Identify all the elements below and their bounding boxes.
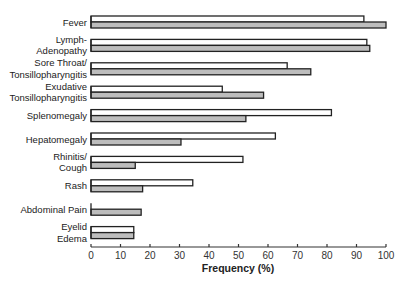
bar-shaded-6: [91, 162, 135, 168]
bar-shaded-2: [91, 69, 311, 75]
x-tick-label-8: 80: [321, 250, 333, 261]
x-tick-label-0: 0: [88, 250, 94, 261]
x-tick-label-3: 30: [174, 250, 186, 261]
category-label-2-0: Sore Throat/: [34, 57, 87, 68]
category-label-2-1: Tonsillopharyngitis: [9, 69, 87, 80]
category-label-9-1: Edema: [57, 233, 88, 244]
bar-shaded-7: [91, 186, 143, 192]
category-label-1-0: Lymph-: [56, 34, 87, 45]
category-label-3-0: Exudative: [45, 81, 87, 92]
category-label-8-0: Abdominal Pain: [20, 204, 87, 215]
bars-group: [91, 16, 386, 239]
bar-open-4: [91, 110, 331, 116]
bar-open-6: [91, 156, 243, 162]
bar-open-3: [91, 86, 222, 92]
x-axis: 0102030405060708090100: [88, 244, 395, 261]
bar-open-1: [91, 39, 367, 45]
bar-open-7: [91, 180, 193, 186]
x-tick-label-10: 100: [378, 250, 395, 261]
bar-open-5: [91, 133, 275, 139]
x-tick-label-9: 90: [351, 250, 363, 261]
frequency-bar-chart: FeverLymph-AdenopathySore Throat/Tonsill…: [0, 0, 410, 285]
bar-shaded-5: [91, 139, 181, 145]
category-label-9-0: Eyelid: [61, 221, 87, 232]
bar-shaded-9: [91, 233, 134, 239]
x-tick-label-2: 20: [144, 250, 156, 261]
x-axis-title: Frequency (%): [202, 262, 274, 274]
category-label-3-1: Tonsillopharyngitis: [9, 92, 87, 103]
category-label-5-0: Hepatomegaly: [26, 134, 88, 145]
category-label-7-0: Rash: [65, 180, 87, 191]
x-tick-label-1: 10: [115, 250, 127, 261]
category-label-0-0: Fever: [63, 17, 87, 28]
bar-open-9: [91, 227, 134, 233]
category-labels: FeverLymph-AdenopathySore Throat/Tonsill…: [9, 17, 87, 244]
x-tick-label-6: 60: [262, 250, 274, 261]
category-label-6-0: Rhinitis/: [53, 151, 87, 162]
category-label-4-0: Splenomegaly: [27, 110, 87, 121]
bar-shaded-3: [91, 92, 264, 98]
category-label-1-1: Adenopathy: [36, 45, 87, 56]
category-label-6-1: Cough: [59, 162, 87, 173]
bar-open-0: [91, 16, 364, 22]
x-tick-label-5: 50: [233, 250, 245, 261]
x-tick-label-7: 70: [292, 250, 304, 261]
bar-shaded-0: [91, 22, 386, 28]
bar-open-2: [91, 63, 287, 69]
bar-shaded-8: [91, 209, 141, 215]
x-tick-label-4: 40: [203, 250, 215, 261]
bar-shaded-1: [91, 45, 370, 51]
bar-shaded-4: [91, 116, 246, 122]
